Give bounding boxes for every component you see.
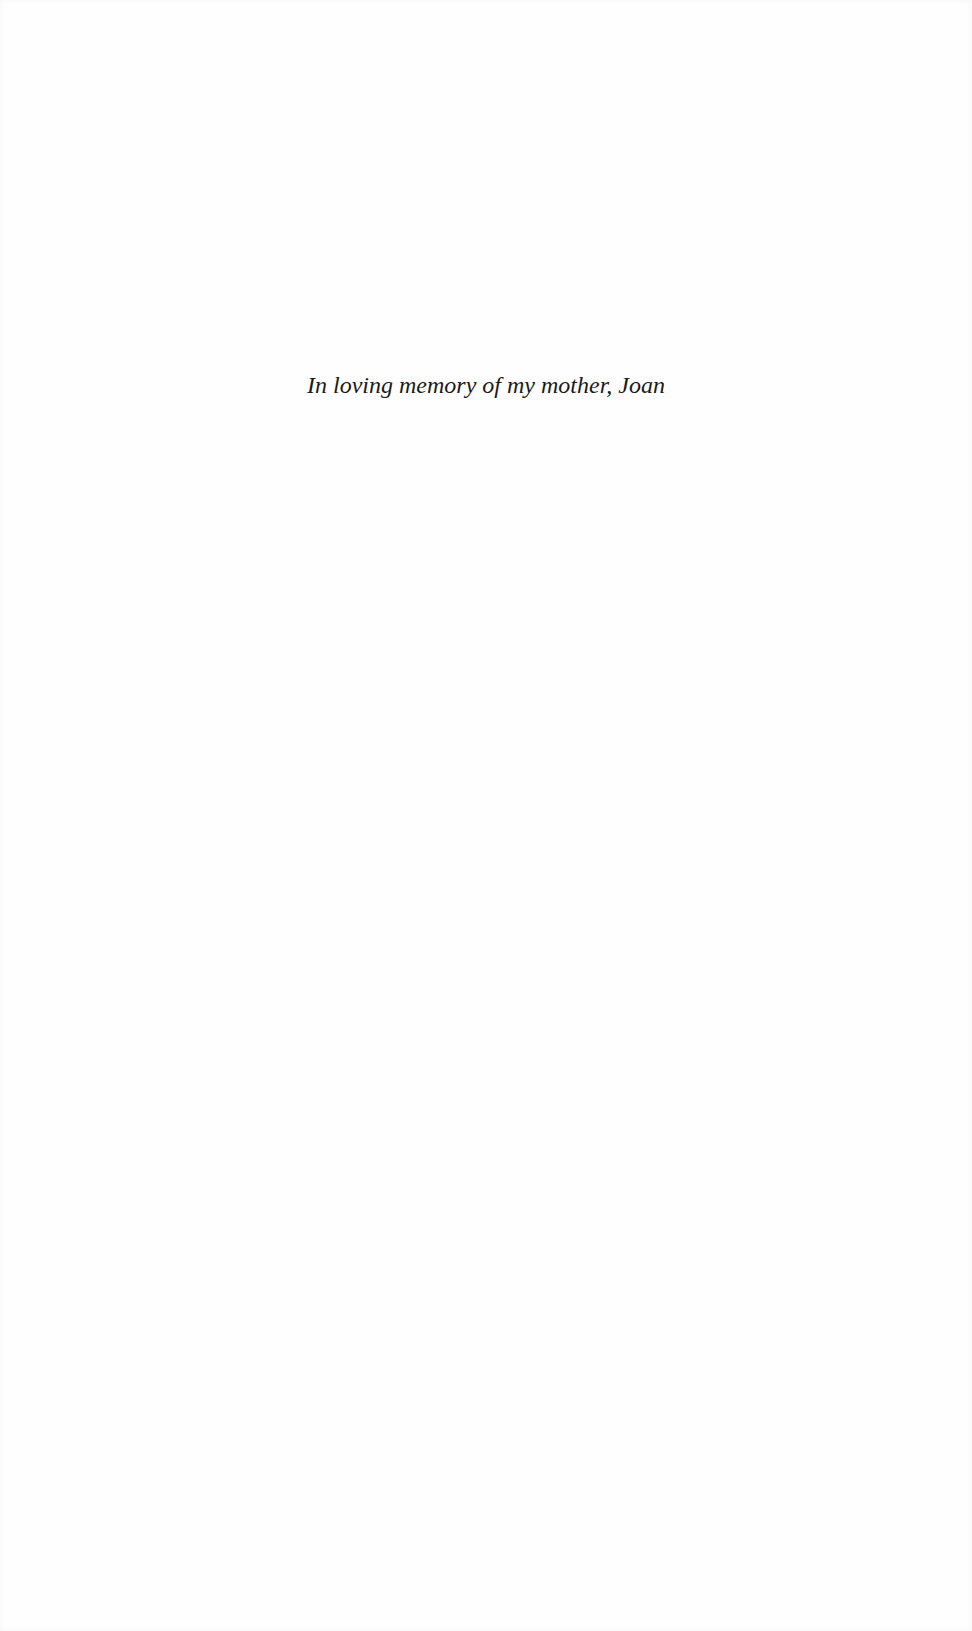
book-page: In loving memory of my mother, Joan	[0, 0, 972, 1631]
dedication-text: In loving memory of my mother, Joan	[0, 372, 972, 399]
